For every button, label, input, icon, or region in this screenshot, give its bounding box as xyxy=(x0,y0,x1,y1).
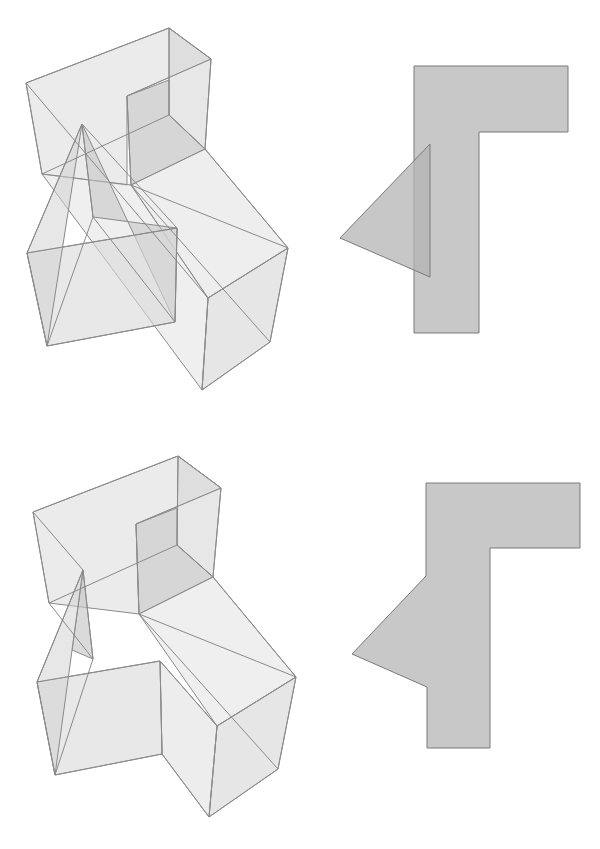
top-projection-l-shape xyxy=(414,66,568,333)
bottom-3d-solid xyxy=(33,456,296,817)
bottom-2d-projection xyxy=(352,483,580,748)
top-3d-solid xyxy=(26,28,288,390)
bottom-projection-outline xyxy=(352,483,580,748)
top-projection-triangle xyxy=(340,144,430,277)
top-2d-projection xyxy=(340,66,568,333)
diagram-canvas xyxy=(0,0,600,849)
